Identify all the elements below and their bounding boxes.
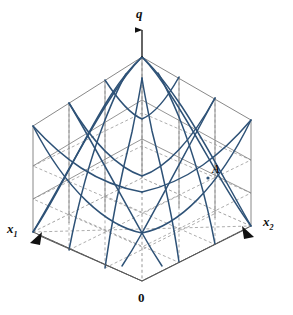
floor-grid-b2 (105, 214, 214, 268)
q-axis-label: q (136, 7, 143, 20)
x1-axis-label-subscript: 1 (14, 230, 18, 239)
production-surface-diagram (0, 0, 293, 315)
point-a-label: A (212, 163, 220, 175)
x1-axis-arrowhead (30, 232, 42, 245)
floor-grid-a2 (105, 196, 214, 244)
point-a-dot (206, 176, 209, 179)
x2-axis-label: x2 (263, 215, 274, 232)
back-panels-group (33, 57, 251, 232)
x1-axis-label: x1 (7, 222, 18, 239)
point-a-marker (206, 176, 209, 179)
x2-axis-label-subscript: 2 (270, 223, 274, 232)
origin-label: 0 (138, 291, 145, 304)
x2-axis (142, 230, 244, 281)
